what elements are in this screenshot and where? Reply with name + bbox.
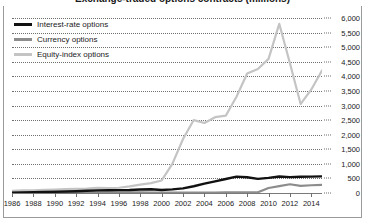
y-axis-tick-label: 2,500 — [341, 116, 360, 125]
y-tick-dash — [324, 105, 331, 106]
x-axis-tick — [162, 193, 163, 197]
x-axis-tick-label: 2014 — [303, 199, 320, 208]
chart-figure: Exchange-traded options contracts (milli… — [0, 0, 365, 220]
x-axis-tick-label: 2006 — [217, 199, 234, 208]
x-axis-tick — [311, 193, 312, 197]
x-axis-tick-label: 1990 — [46, 199, 63, 208]
legend-label: Equity-index options — [37, 50, 109, 59]
y-axis-tick-label: 5,500 — [341, 28, 360, 37]
x-axis-tick — [183, 193, 184, 197]
y-tick-dash — [324, 32, 331, 33]
x-axis-tick-label: 1994 — [89, 199, 106, 208]
legend-label: Currency options — [37, 35, 97, 44]
x-axis-tick — [140, 193, 141, 197]
y-tick-dash — [324, 120, 331, 121]
y-tick-dash — [324, 61, 331, 62]
x-axis-tick-label: 2012 — [282, 199, 299, 208]
chart-title: Exchange-traded options contracts (milli… — [3, 0, 362, 4]
y-tick-dash — [324, 18, 331, 19]
x-axis-tick — [119, 193, 120, 197]
x-axis-tick — [247, 193, 248, 197]
y-tick-dash — [324, 149, 331, 150]
y-axis-tick-label: 3,000 — [341, 101, 360, 110]
legend-label: Interest-rate options — [37, 20, 108, 29]
y-axis-tick-label: 1,000 — [341, 159, 360, 168]
x-axis-tick — [33, 193, 34, 197]
y-tick-dash — [324, 134, 331, 135]
y-axis-tick-label: 1,500 — [341, 145, 360, 154]
x-axis-tick-label: 2008 — [239, 199, 256, 208]
y-axis-tick-label: 5,000 — [341, 43, 360, 52]
x-axis-tick — [12, 193, 13, 197]
x-axis-tick-label: 1996 — [111, 199, 128, 208]
y-axis-tick-label: 500 — [347, 174, 360, 183]
y-axis-tick-label: 0 — [356, 189, 360, 198]
y-axis-tick-label: 3,500 — [341, 86, 360, 95]
x-axis-tick-label: 2002 — [175, 199, 192, 208]
x-axis-tick-label: 2010 — [260, 199, 277, 208]
x-axis-tick-label: 1998 — [132, 199, 149, 208]
x-axis-tick-label: 1992 — [68, 199, 85, 208]
y-axis-tick-label: 4,500 — [341, 57, 360, 66]
legend-item[interactable]: Interest-rate options — [14, 20, 112, 29]
x-axis-tick-label: 2000 — [153, 199, 170, 208]
x-axis-tick — [98, 193, 99, 197]
y-tick-dash — [324, 178, 331, 179]
chart-legend: Interest-rate optionsCurrency optionsEqu… — [14, 20, 112, 59]
x-axis-labels: 1986198819901992199419961998200020022004… — [0, 199, 365, 213]
y-axis-tick-label: 6,000 — [341, 14, 360, 23]
x-axis-tick — [204, 193, 205, 197]
legend-item[interactable]: Equity-index options — [14, 50, 112, 59]
y-tick-dash — [324, 76, 331, 77]
y-tick-dash — [324, 90, 331, 91]
legend-swatch-icon — [14, 23, 32, 26]
legend-swatch-icon — [14, 53, 32, 56]
x-axis-tick — [226, 193, 227, 197]
x-axis-tick — [55, 193, 56, 197]
y-axis-tick-label: 4,000 — [341, 72, 360, 81]
legend-item[interactable]: Currency options — [14, 35, 112, 44]
y-tick-dash — [324, 193, 331, 194]
y-tick-dash — [324, 47, 331, 48]
x-axis-tick — [76, 193, 77, 197]
y-axis-tick-label: 2,000 — [341, 130, 360, 139]
y-tick-dash — [324, 163, 331, 164]
x-axis-ticks — [12, 193, 322, 198]
x-axis-tick — [290, 193, 291, 197]
legend-swatch-icon — [14, 38, 32, 41]
x-axis-tick-label: 1988 — [25, 199, 42, 208]
y-axis-labels: 6,0005,5005,0004,5004,0003,5003,0002,500… — [324, 18, 362, 193]
x-axis-tick — [269, 193, 270, 197]
x-axis-tick-label: 2004 — [196, 199, 213, 208]
x-axis-tick-label: 1986 — [4, 199, 21, 208]
